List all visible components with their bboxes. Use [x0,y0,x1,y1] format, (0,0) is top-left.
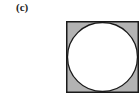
square-with-inscribed-circle [66,21,139,93]
panel-label: (c) [16,1,28,13]
figure-panel: (c) [0,0,140,96]
inscribed-circle [68,23,138,92]
